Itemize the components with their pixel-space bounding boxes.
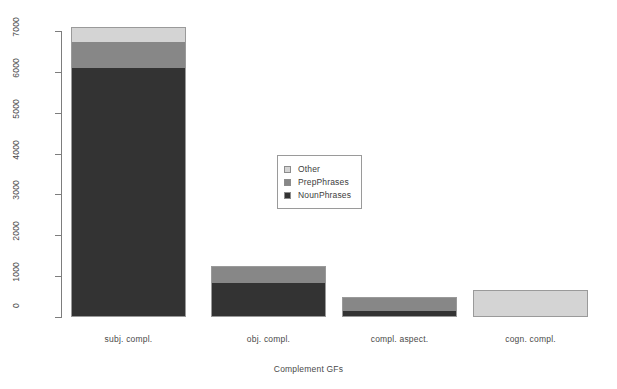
legend-item: Other bbox=[284, 163, 351, 175]
legend-swatch-icon bbox=[284, 179, 291, 186]
x-axis-tick-label: cogn. compl. bbox=[473, 334, 588, 344]
legend-item: PrepPhrases bbox=[284, 176, 351, 188]
legend-swatch-icon bbox=[284, 192, 291, 199]
bar-segment-other bbox=[71, 27, 186, 42]
bar-column bbox=[71, 27, 186, 317]
bar-segment-prepphrases bbox=[342, 297, 457, 311]
bar-segment-prepphrases bbox=[71, 42, 186, 67]
bar-segment-nounphrases bbox=[71, 68, 186, 317]
x-axis-tick-label: compl. aspect. bbox=[342, 334, 457, 344]
x-axis-tick-label: obj. compl. bbox=[211, 334, 326, 344]
chart-legend: OtherPrepPhrasesNounPhrases bbox=[277, 155, 362, 209]
legend-item-label: NounPhrases bbox=[298, 190, 351, 200]
bar-segment-nounphrases bbox=[211, 283, 326, 317]
bar-column bbox=[342, 297, 457, 317]
legend-item-label: Other bbox=[298, 164, 320, 174]
bar-segment-nounphrases bbox=[342, 311, 457, 317]
stacked-bar-chart: 01000200030004000500060007000 subj. comp… bbox=[0, 0, 617, 389]
legend-item-label: PrepPhrases bbox=[298, 177, 349, 187]
legend-swatch-icon bbox=[284, 166, 291, 173]
bar-segment-prepphrases bbox=[211, 266, 326, 283]
legend-item: NounPhrases bbox=[284, 189, 351, 201]
x-axis-tick-label: subj. compl. bbox=[71, 334, 186, 344]
bar-segment-other bbox=[473, 290, 588, 317]
x-axis-title: Complement GFs bbox=[0, 364, 617, 374]
bar-column bbox=[211, 266, 326, 317]
bar-column bbox=[473, 290, 588, 317]
